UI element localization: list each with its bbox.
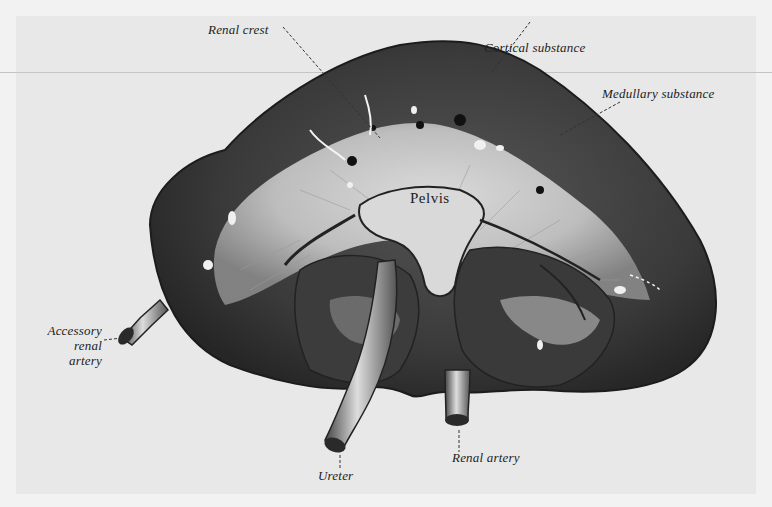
renal-artery-tube [445,370,470,418]
label-renal-crest: Renal crest [208,22,269,38]
label-medullary-substance: Medullary substance [602,86,714,102]
label-cortical-substance: Cortical substance [484,40,585,56]
renal-artery-opening [445,414,469,426]
label-accessory-line3: artery [30,353,102,368]
label-accessory-line2: renal [30,338,102,353]
label-pelvis: Pelvis [410,190,450,207]
label-renal-artery: Renal artery [452,450,520,466]
label-accessory-renal-artery: Accessory renal artery [30,323,102,368]
label-accessory-line1: Accessory [30,323,102,338]
kidney-section-illustration [0,0,772,507]
label-ureter: Ureter [318,468,353,484]
